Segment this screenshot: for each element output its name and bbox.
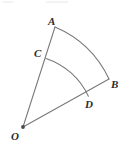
- point-label-o: O: [11, 131, 19, 142]
- point-label-c: C: [34, 48, 41, 59]
- figure-canvas: [0, 0, 127, 149]
- inner-arc-cd: [46, 58, 88, 96]
- geometry-figure: A B C D O: [0, 0, 127, 149]
- vertex-o-dot: [21, 125, 25, 129]
- point-label-a: A: [48, 16, 55, 27]
- point-label-d: D: [85, 99, 93, 110]
- outer-arc-ab: [55, 27, 109, 79]
- point-label-b: B: [111, 79, 118, 90]
